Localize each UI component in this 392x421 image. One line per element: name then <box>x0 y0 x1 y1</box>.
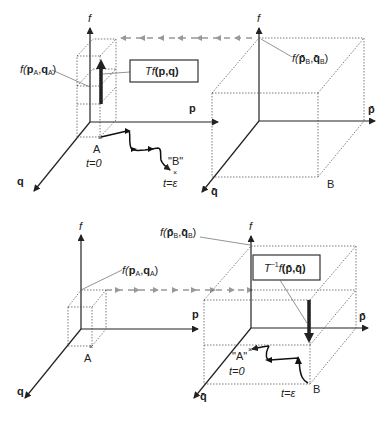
value-label-b: f(p̄B,q̄B) <box>160 226 196 239</box>
bottom-left-system: f p q f(pA,qA) × A <box>17 220 199 398</box>
operator-text: T−1f(p̄,q̄) <box>264 261 306 274</box>
operator-text: Tf(p,q) <box>145 65 179 77</box>
point-a-label: A <box>84 352 92 364</box>
p-axis-label: p <box>192 308 199 320</box>
top-dashed-transfer <box>120 35 256 41</box>
f-axis-label: f <box>88 12 92 24</box>
dotted-box-b <box>212 38 364 177</box>
value-label-a: f(pA,qA) <box>20 63 56 76</box>
point-a-quoted-label: "A" <box>232 350 247 362</box>
time-label-t0: t=0 <box>229 365 245 377</box>
q-bar-axis-label: q̄ <box>211 185 218 197</box>
bottom-dashed-transfer <box>106 287 253 293</box>
point-b-quoted-label: "B" <box>168 155 183 167</box>
op-leader <box>280 280 307 323</box>
value-leader <box>81 270 122 290</box>
q-axis <box>34 122 90 191</box>
top-panel: Tf(p,q) f p q f(pA,qA) × A t=0 "B" × t=ε <box>17 12 375 197</box>
value-label-a: f(pA,qA) <box>122 264 158 277</box>
value-label-b: f(p̄B,q̄B) <box>292 52 328 65</box>
time-label-teps: t=ε <box>281 387 295 399</box>
q-axis <box>25 329 81 398</box>
phase-space-transformation-diagram: Tf(p,q) f p q f(pA,qA) × A t=0 "B" × t=ε <box>0 0 392 421</box>
point-b-label: B <box>313 383 320 395</box>
time-label-t0: t=0 <box>86 157 102 169</box>
f-axis-label: f <box>257 12 261 24</box>
point-b-label: B <box>327 178 334 190</box>
q-bar-axis-label: q̄ <box>200 390 207 402</box>
q-bar-axis <box>194 328 251 398</box>
q-bar-axis <box>202 121 259 192</box>
time-label-teps: t=ε <box>163 177 177 189</box>
p-bar-axis-label: p̄ <box>368 103 375 115</box>
p-axis-label: p <box>189 102 196 114</box>
value-leader <box>261 39 292 57</box>
point-b-quoted-marker: × <box>173 169 177 176</box>
p-bar-axis-label: p̄ <box>359 310 366 322</box>
value-leader <box>200 237 250 245</box>
f-axis-label: f <box>79 220 83 232</box>
q-axis-label: q <box>17 385 24 397</box>
point-a-quoted-marker: × <box>248 346 252 353</box>
bottom-panel: f p q f(pA,qA) × A <box>17 220 368 402</box>
f-axis-label: f <box>249 220 253 232</box>
trajectory-b-to-a <box>252 346 308 383</box>
op-leader <box>103 72 130 74</box>
point-a-label: A <box>93 143 101 155</box>
q-axis-label: q <box>17 175 24 187</box>
point-a-marker: × <box>89 343 93 350</box>
top-left-system: Tf(p,q) f p q f(pA,qA) × A t=0 "B" × t=ε <box>17 12 218 191</box>
top-right-system: f p̄ q̄ f(p̄B,q̄B) B <box>202 12 375 197</box>
trajectory-a-to-b <box>101 131 170 170</box>
